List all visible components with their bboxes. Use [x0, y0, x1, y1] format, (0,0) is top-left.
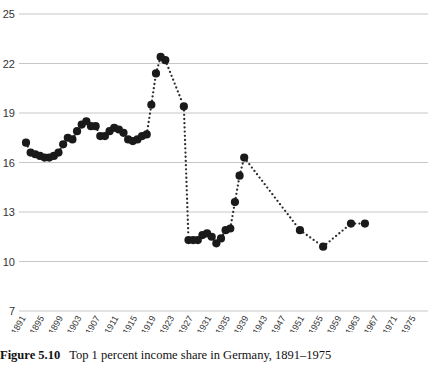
series-connector-dot — [187, 227, 189, 229]
series-connector-dot — [242, 162, 244, 164]
data-point — [296, 226, 304, 234]
series-connector-dot — [153, 87, 155, 89]
series-connector-dot — [185, 172, 187, 174]
x-tick-label: 1967 — [362, 314, 381, 332]
series-connector-dot — [186, 206, 188, 208]
series-connector-dot — [185, 181, 187, 183]
series-connector-dot — [186, 198, 188, 200]
series-connector-dot — [180, 98, 182, 100]
series-connector-dot — [231, 219, 233, 221]
series-connector-dot — [184, 151, 186, 153]
series-connector-dot — [251, 166, 253, 168]
x-tick-label: 1947 — [269, 314, 288, 332]
series-connector-dot — [185, 164, 187, 166]
x-tick-label: 1903 — [65, 314, 84, 332]
x-tick-label: 1911 — [102, 314, 120, 332]
series-connector-dot — [187, 219, 189, 221]
series-connector-dot — [269, 190, 271, 192]
series-connector-dot — [184, 156, 186, 158]
series-connector-dot — [294, 223, 296, 225]
series-connector-dot — [237, 184, 239, 186]
series-connector-dot — [175, 86, 177, 88]
x-tick-label: 1895 — [28, 314, 47, 332]
x-tick-label: 1959 — [325, 314, 344, 332]
x-tick-label: 1935 — [213, 314, 232, 332]
x-tick-label: 1927 — [176, 314, 195, 332]
series-connector-dot — [253, 170, 255, 172]
data-point — [361, 219, 369, 227]
series-connector-dot — [341, 229, 343, 231]
series-connector-dot — [184, 139, 186, 141]
data-point — [217, 234, 225, 242]
y-tick-label: 16 — [3, 157, 15, 169]
series-connector-dot — [256, 173, 258, 175]
y-tick-label: 25 — [3, 8, 15, 20]
x-tick-label: 1955 — [306, 314, 325, 332]
x-tick-label: 1963 — [343, 314, 362, 332]
series-connector-dot — [241, 166, 243, 168]
series-connector-dot — [236, 189, 238, 191]
y-tick-label: 7 — [9, 305, 15, 317]
income-share-scatter-chart: 7101316192225 18911895189919031907191119… — [0, 0, 430, 332]
series-connector-dot — [183, 114, 185, 116]
series-connector-dot — [185, 185, 187, 187]
data-point — [92, 122, 100, 130]
series-connector-dot — [316, 241, 318, 243]
series-connector-dot — [338, 232, 340, 234]
series-connector-dot — [152, 91, 154, 93]
x-tick-label: 1975 — [399, 314, 418, 332]
data-series-points — [22, 53, 369, 251]
x-tick-label: 1907 — [83, 314, 102, 332]
data-point — [235, 172, 243, 180]
series-connector-dot — [186, 214, 188, 216]
x-tick-label: 1951 — [288, 314, 307, 332]
data-point — [180, 102, 188, 110]
data-point — [68, 135, 76, 143]
series-connector-dot — [328, 240, 330, 242]
series-connector-dot — [148, 121, 150, 123]
series-connector-dot — [167, 67, 169, 69]
series-connector-dot — [335, 235, 337, 237]
series-connector-dot — [332, 237, 334, 239]
x-tick-label: 1971 — [380, 314, 399, 332]
data-point — [147, 101, 155, 109]
series-connector-dot — [184, 147, 186, 149]
series-connector-dot — [261, 180, 263, 182]
series-connector-dot — [169, 71, 171, 73]
figure-caption-text: Top 1 percent income share in Germany, 1… — [60, 348, 331, 362]
series-connector-dot — [183, 126, 185, 128]
series-connector-dot — [149, 113, 151, 115]
data-point — [152, 69, 160, 77]
x-tick-label: 1931 — [195, 314, 214, 332]
series-connector-dot — [289, 216, 291, 218]
series-connector-dot — [309, 236, 311, 238]
series-connector-dot — [258, 176, 260, 178]
figure-caption-label: Figure 5.10 — [0, 348, 60, 362]
series-connector-dot — [279, 203, 281, 205]
series-connector-dot — [174, 82, 176, 84]
series-connector-dot — [248, 163, 250, 165]
data-point — [231, 198, 239, 206]
data-point — [143, 130, 151, 138]
series-connector-dot — [186, 193, 188, 195]
data-point — [22, 139, 30, 147]
chart-plot-area: 7101316192225 18911895189919031907191119… — [0, 0, 430, 330]
series-connector-dot — [232, 211, 234, 213]
series-connector-dot — [292, 220, 294, 222]
data-point — [319, 243, 327, 251]
y-tick-label: 10 — [3, 256, 15, 268]
series-connector-dot — [287, 213, 289, 215]
series-connector-dot — [186, 210, 188, 212]
x-tick-label: 1923 — [158, 314, 177, 332]
data-point — [347, 219, 355, 227]
x-tick-label: 1899 — [46, 314, 65, 332]
series-connector-dot — [306, 234, 308, 236]
data-point — [59, 140, 67, 148]
y-axis-tick-labels: 7101316192225 — [3, 8, 15, 317]
x-axis-tick-labels: 1891189518991903190719111915191919231927… — [9, 314, 418, 332]
y-tick-label: 22 — [3, 58, 15, 70]
series-connector-dot — [276, 200, 278, 202]
series-connector-dot — [186, 202, 188, 204]
series-connector-dot — [151, 95, 153, 97]
x-tick-label: 1915 — [120, 314, 139, 332]
